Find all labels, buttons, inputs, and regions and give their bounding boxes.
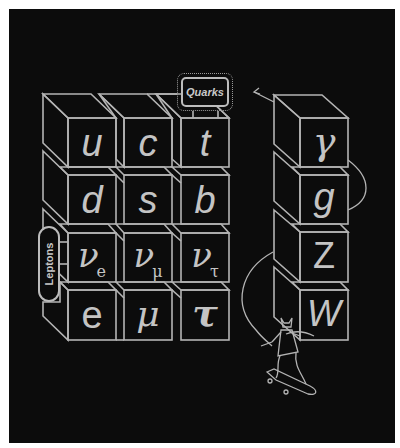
cube-gamma	[274, 95, 348, 167]
cube-tau	[172, 282, 229, 340]
fermion-cubes	[43, 94, 229, 340]
cube-mu	[116, 282, 172, 340]
cube-u	[43, 94, 116, 167]
boson-cubes	[274, 95, 348, 340]
cube-g	[274, 152, 348, 224]
cube-w	[274, 267, 348, 340]
arrow-icon	[254, 88, 274, 102]
cube-b	[172, 167, 229, 224]
cube-nu-mu	[116, 224, 172, 282]
cube-d	[43, 151, 116, 224]
cube-c	[99, 94, 172, 167]
skateboarder-icon	[261, 318, 316, 394]
leptons-label-text: Leptons	[43, 243, 55, 286]
cube-z	[274, 210, 348, 282]
quarks-label-text: Quarks	[186, 86, 224, 98]
cube-nu-tau	[172, 224, 229, 282]
cube-diagram	[0, 0, 400, 448]
leptons-label: Leptons	[38, 226, 60, 302]
quarks-label: Quarks	[181, 77, 229, 107]
cube-s	[116, 167, 172, 224]
